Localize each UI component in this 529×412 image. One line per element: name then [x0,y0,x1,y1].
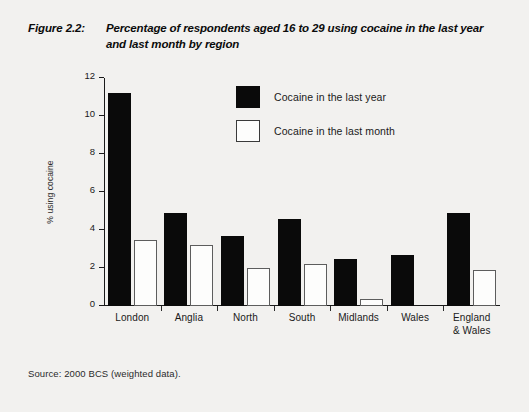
bar-midlands-last-year [334,259,357,307]
bar-midlands-last-month [360,299,383,306]
bar-anglia-last-month [190,245,213,306]
y-axis-line [104,78,105,306]
bar-south-last-month [304,264,327,306]
axis-area: 024681012 [104,78,500,306]
y-tick-label-10: 10 [84,108,95,119]
bar-london-last-month [134,240,157,307]
bar-wales-last-year [391,255,414,306]
y-tick-8: 8 [99,153,104,154]
y-tick-4: 4 [99,229,104,230]
figure-title-text: Percentage of respondents aged 16 to 29 … [106,20,506,52]
x-tick-2 [217,306,218,311]
y-tick-label-8: 8 [90,146,95,157]
y-tick-10: 10 [99,115,104,116]
x-category-label-south: South [274,312,331,325]
bar-north-last-year [221,236,244,306]
x-tick-5 [387,306,388,311]
x-category-label-england-wales: England & Wales [443,312,500,337]
bar-anglia-last-year [164,213,187,306]
y-tick-label-6: 6 [90,184,95,195]
x-category-label-london: London [104,312,161,325]
y-axis-label: % using cocaine [45,132,55,252]
chart-plot-area: % using cocaine Cocaine in the last year… [0,62,529,352]
y-tick-label-4: 4 [90,222,95,233]
y-tick-2: 2 [99,267,104,268]
y-tick-label-2: 2 [90,260,95,271]
bar-england-wales-last-month [473,270,496,306]
x-category-label-wales: Wales [387,312,444,325]
x-tick-4 [330,306,331,311]
x-category-label-midlands: Midlands [330,312,387,325]
bar-london-last-year [108,93,131,306]
figure-title-block: Figure 2.2: Percentage of respondents ag… [28,20,506,52]
bar-north-last-month [247,268,270,306]
bar-south-last-year [278,219,301,306]
bar-england-wales-last-year [447,213,470,306]
x-tick-1 [161,306,162,311]
y-tick-12: 12 [99,77,104,78]
x-category-label-anglia: Anglia [161,312,218,325]
x-tick-6 [443,306,444,311]
y-tick-label-0: 0 [90,298,95,309]
figure-number-label: Figure 2.2: [28,20,106,36]
y-tick-6: 6 [99,191,104,192]
x-category-label-north: North [217,312,274,325]
y-tick-label-12: 12 [84,70,95,81]
figure-page: Figure 2.2: Percentage of respondents ag… [0,0,529,412]
source-note: Source: 2000 BCS (weighted data). [28,368,181,379]
x-tick-3 [274,306,275,311]
y-tick-0: 0 [99,305,104,306]
